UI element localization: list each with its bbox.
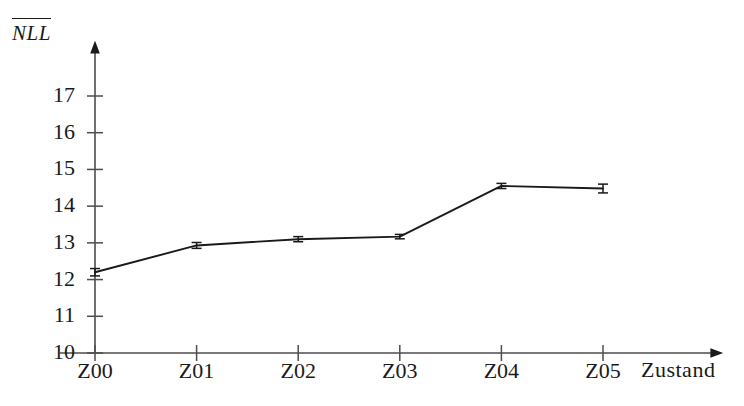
y-tick-label: 17 [29, 82, 75, 108]
y-tick-label: 16 [29, 119, 75, 145]
y-axis-title: NLL [12, 18, 51, 46]
y-tick-label: 15 [29, 155, 75, 181]
chart-figure: NLL Zustand 1011121314151617 Z00Z01Z02Z0… [0, 0, 744, 406]
series-line [95, 186, 603, 272]
error-bars [90, 183, 608, 276]
y-tick-label: 11 [29, 302, 75, 328]
x-axis-title: Zustand [641, 357, 715, 383]
axes [60, 52, 712, 353]
y-axis-title-label: NLL [12, 18, 51, 46]
y-tick-label: 13 [29, 229, 75, 255]
x-tick-label: Z05 [563, 358, 643, 384]
x-tick-label: Z00 [55, 358, 135, 384]
x-tick-label: Z04 [461, 358, 541, 384]
x-tick-label: Z01 [157, 358, 237, 384]
plot-area [0, 0, 744, 406]
y-tick-label: 14 [29, 192, 75, 218]
data-series-nll [95, 186, 603, 272]
y-tick-label: 12 [29, 266, 75, 292]
x-tick-label: Z02 [258, 358, 338, 384]
x-tick-label: Z03 [360, 358, 440, 384]
axis-ticks [87, 96, 603, 361]
